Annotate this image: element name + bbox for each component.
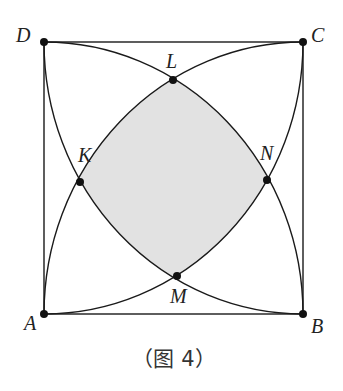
shaded-region-klnm — [79, 79, 269, 278]
label-d: D — [15, 24, 31, 46]
point-m — [173, 272, 181, 280]
label-n: N — [259, 142, 275, 164]
geometry-figure: D C L K N M A B （图 4） — [0, 0, 343, 391]
label-a: A — [22, 312, 37, 334]
label-l: L — [165, 50, 177, 72]
label-m: M — [169, 285, 188, 307]
point-d — [40, 38, 48, 46]
point-n — [263, 176, 271, 184]
point-l — [169, 76, 177, 84]
figure-caption: （图 4） — [132, 347, 215, 371]
point-c — [299, 38, 307, 46]
point-k — [76, 178, 84, 186]
label-k: K — [77, 144, 93, 166]
point-a — [40, 310, 48, 318]
point-b — [299, 310, 307, 318]
label-b: B — [311, 315, 323, 337]
label-c: C — [311, 24, 325, 46]
